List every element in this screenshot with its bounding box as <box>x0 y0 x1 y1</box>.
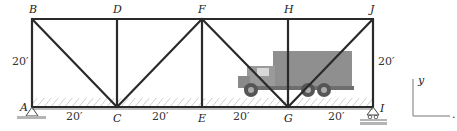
node-label-J: J <box>368 3 375 16</box>
dim-height-left: 20′ <box>12 55 29 68</box>
node-label-G: G <box>284 112 293 125</box>
node-label-H: H <box>283 3 294 16</box>
node-label-E: E <box>197 112 206 125</box>
node-label-C: C <box>113 112 122 125</box>
node-label-A: A <box>19 101 28 114</box>
truss-diagram: B D F H J A C E G I 20′ 20′ 20′ 20′ 20′ … <box>0 0 457 131</box>
axis-label-y: y <box>417 74 425 87</box>
dim-panel-CE: 20′ <box>152 110 169 123</box>
axis-label-x: . <box>452 108 456 121</box>
node-label-F: F <box>197 3 206 16</box>
dim-panel-EG: 20′ <box>233 110 250 123</box>
dim-panel-GI: 20′ <box>328 110 345 123</box>
member-BC <box>32 19 117 107</box>
axes-icon: y . <box>413 74 456 121</box>
node-label-B: B <box>28 3 37 16</box>
node-label-I: I <box>379 102 385 115</box>
node-label-D: D <box>112 3 122 16</box>
member-CF <box>117 19 202 107</box>
dim-panel-AC: 20′ <box>66 110 83 123</box>
dim-height-right: 20′ <box>378 55 395 68</box>
truss-svg: B D F H J A C E G I 20′ 20′ 20′ 20′ 20′ … <box>0 0 457 131</box>
